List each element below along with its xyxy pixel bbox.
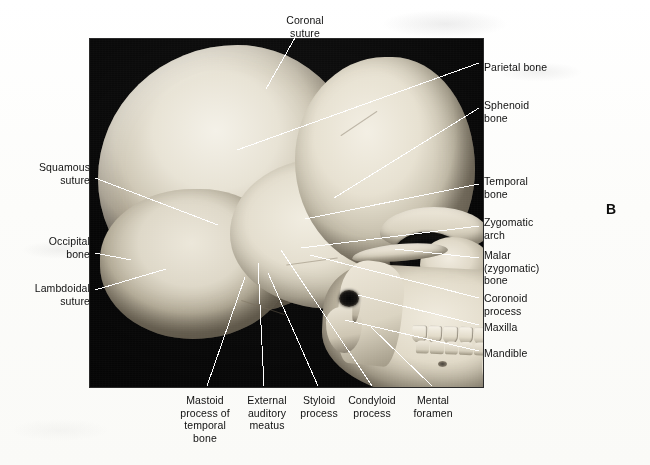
label-malar-zygomatic-bone: Malar (zygomatic) bone (484, 249, 539, 287)
label-coronoid-process: Coronoid process (484, 292, 527, 317)
figure-letter-label: B (606, 201, 616, 217)
label-mental-foramen: Mental foramen (373, 394, 493, 419)
external-auditory-meatus-region (339, 290, 359, 307)
label-coronal-suture: Coronal suture (245, 14, 365, 39)
label-occipital-bone: Occipital bone (0, 235, 90, 260)
label-temporal-bone: Temporal bone (484, 175, 528, 200)
skull-photograph (90, 39, 483, 387)
mental-foramen-region (438, 361, 447, 367)
label-maxilla: Maxilla (484, 321, 517, 334)
label-squamous-suture: Squamous suture (0, 161, 90, 186)
label-lambdoidal-suture: Lambdoidal suture (0, 282, 90, 307)
condyloid-process-region (362, 279, 386, 297)
label-sphenoid-bone: Sphenoid bone (484, 99, 529, 124)
label-mandible: Mandible (484, 347, 527, 360)
label-zygomatic-arch: Zygomatic arch (484, 216, 533, 241)
figure-page: Coronal sutureParietal boneSphenoid bone… (0, 0, 650, 465)
label-parietal-bone: Parietal bone (484, 61, 547, 74)
